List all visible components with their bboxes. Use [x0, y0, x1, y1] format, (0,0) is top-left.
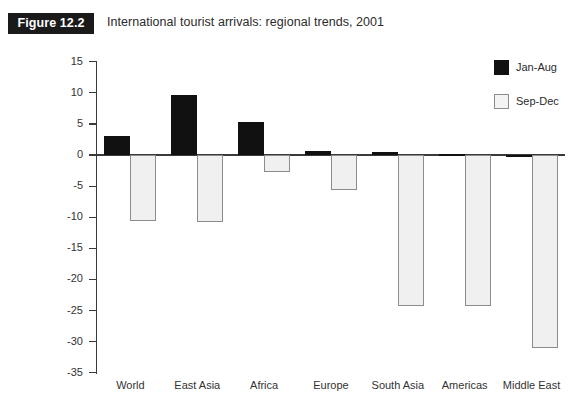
figure-title: International tourist arrivals: regional… [107, 15, 384, 29]
bar-world-jan-aug [104, 136, 130, 155]
y-axis-tick-label: -35 [49, 366, 83, 378]
x-axis-label-east-asia: East Asia [164, 379, 231, 391]
bar-africa-jan-aug [238, 122, 264, 155]
y-axis-tick-label: -25 [49, 304, 83, 316]
legend-swatch-icon [494, 94, 509, 109]
y-axis-tick [89, 186, 97, 187]
y-axis-tick [89, 279, 97, 280]
x-axis-label-americas: Americas [431, 379, 498, 391]
x-axis-label-middle-east: Middle East [498, 379, 565, 391]
y-axis-tick [89, 341, 97, 342]
y-axis-tick [89, 248, 97, 249]
bar-europe-sep-dec [331, 155, 357, 190]
bar-africa-sep-dec [264, 155, 290, 172]
legend-label: Jan-Aug [516, 60, 557, 75]
y-axis-tick-label: 0 [49, 148, 83, 160]
bar-east-asia-jan-aug [171, 95, 197, 155]
legend-swatch-icon [494, 60, 509, 75]
y-axis-tick-label: -10 [49, 210, 83, 222]
y-axis-tick [89, 61, 97, 62]
bottom-caption-strip [0, 398, 572, 408]
y-axis-line [96, 62, 97, 374]
x-axis-label-africa: Africa [231, 379, 298, 391]
y-axis-tick [89, 310, 97, 311]
chart-legend: Jan-AugSep-Dec [494, 60, 572, 128]
bar-south-asia-jan-aug [372, 152, 398, 155]
figure-page: Figure 12.2 International tourist arriva… [0, 0, 572, 408]
y-axis-tick-label: -5 [49, 179, 83, 191]
y-axis-tick-label: -15 [49, 241, 83, 253]
y-axis-tick-label: 15 [49, 55, 83, 67]
bar-world-sep-dec [130, 155, 156, 221]
bar-europe-jan-aug [305, 151, 331, 155]
legend-item-jan-aug: Jan-Aug [494, 60, 572, 94]
y-axis-tick [89, 154, 97, 155]
y-axis-tick-label: 5 [49, 117, 83, 129]
figure-header: Figure 12.2 International tourist arriva… [0, 0, 572, 46]
legend-label: Sep-Dec [516, 94, 559, 109]
x-axis-label-europe: Europe [298, 379, 365, 391]
y-axis-tick [89, 372, 97, 373]
y-axis-tick-label: -20 [49, 272, 83, 284]
y-axis-tick-label: -30 [49, 335, 83, 347]
bar-middle-east-sep-dec [532, 155, 558, 348]
bar-americas-jan-aug [439, 154, 465, 156]
bar-south-asia-sep-dec [398, 155, 424, 306]
y-axis-tick [89, 92, 97, 93]
legend-item-sep-dec: Sep-Dec [494, 94, 572, 128]
y-axis-tick-label: 10 [49, 86, 83, 98]
figure-number-badge: Figure 12.2 [8, 13, 94, 34]
x-axis-label-south-asia: South Asia [364, 379, 431, 391]
bar-east-asia-sep-dec [197, 155, 223, 222]
y-axis-tick [89, 217, 97, 218]
bar-americas-sep-dec [465, 155, 491, 306]
bar-middle-east-jan-aug [506, 155, 532, 157]
x-axis-label-world: World [97, 379, 164, 391]
y-axis-tick [89, 123, 97, 124]
